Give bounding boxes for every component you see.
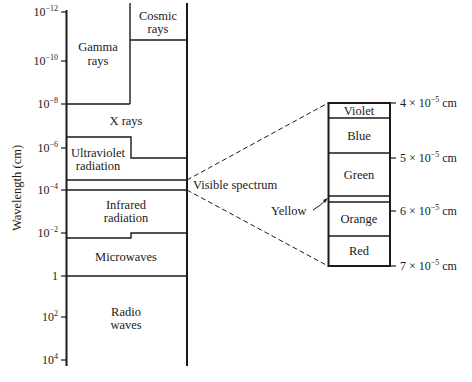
tick-label: 10−4 <box>37 182 58 197</box>
band-label-cosmic: rays <box>148 22 169 36</box>
band-label-radio: Radio <box>111 305 141 319</box>
scale-label: 5 × 10−5 cm <box>400 150 458 165</box>
color-label-red: Red <box>349 244 370 258</box>
y-axis-ticks <box>61 12 66 360</box>
color-label-blue: Blue <box>347 129 371 143</box>
scale-label: 4 × 10−5 cm <box>400 95 458 110</box>
band-label-gamma: Gamma <box>78 40 118 54</box>
tick-label: 1 <box>52 269 58 283</box>
tick-label: 10−10 <box>33 53 58 68</box>
y-axis-label: Wavelength (cm) <box>10 145 24 231</box>
tick-label: 10−12 <box>33 4 58 19</box>
band-label-microwaves: Microwaves <box>95 250 157 264</box>
band-label-infrared: Infrared <box>106 198 147 212</box>
visible-spectrum-inset <box>328 102 396 267</box>
scale-label: 7 × 10−5 cm <box>400 258 458 273</box>
band-label-ultraviolet: radiation <box>76 159 121 173</box>
band-label-xrays: X rays <box>110 114 143 128</box>
visible-scale-labels: 4 × 10−5 cm 5 × 10−5 cm 6 × 10−5 cm 7 × … <box>400 95 458 273</box>
tick-label: 10−2 <box>37 225 58 240</box>
tick-label: 10−6 <box>37 140 58 155</box>
tick-label: 104 <box>42 352 58 367</box>
band-label-ultraviolet: Ultraviolet <box>71 146 126 160</box>
spectrum-diagram: 10−12 10−10 10−8 10−6 10−4 10−2 1 102 10… <box>0 0 472 382</box>
yellow-callout-label: Yellow <box>271 204 307 218</box>
tick-label: 10−8 <box>37 96 58 111</box>
band-labels: Cosmic rays Gamma rays X rays Ultraviole… <box>71 9 178 332</box>
band-label-gamma: rays <box>88 54 109 68</box>
color-label-violet: Violet <box>344 104 375 118</box>
y-axis-tick-labels: 10−12 10−10 10−8 10−6 10−4 10−2 1 102 10… <box>33 4 58 367</box>
visible-spectrum-label: Visible spectrum <box>193 178 278 192</box>
band-label-radio: waves <box>110 318 141 332</box>
band-label-cosmic: Cosmic <box>139 9 178 23</box>
color-label-orange: Orange <box>341 212 378 226</box>
visible-color-labels: Violet Blue Green Orange Red <box>341 104 378 258</box>
color-label-green: Green <box>344 168 375 182</box>
tick-label: 102 <box>42 309 58 324</box>
scale-label: 6 × 10−5 cm <box>400 203 458 218</box>
band-label-infrared: radiation <box>104 211 149 225</box>
